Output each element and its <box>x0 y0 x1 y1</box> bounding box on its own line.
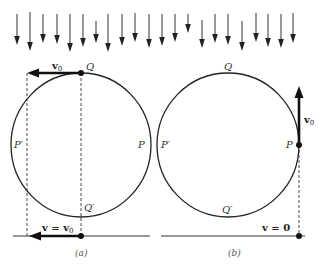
label-v-equals-zero: v = 0 <box>261 222 290 233</box>
label-q: Q <box>86 61 94 72</box>
point-q-dot <box>78 70 84 76</box>
label-q-prime: Q′ <box>222 204 233 215</box>
arrowhead-down-icon <box>54 35 60 44</box>
label-q-prime: Q′ <box>84 202 95 213</box>
arrowhead-left-icon <box>27 69 39 78</box>
arrowhead-down-icon <box>159 37 165 46</box>
arrowhead-down-icon <box>14 36 20 45</box>
label-p: P <box>137 139 145 150</box>
arrowhead-down-icon <box>172 33 178 42</box>
arrowhead-down-icon <box>278 39 284 48</box>
arrowhead-down-icon <box>253 33 259 42</box>
arrowhead-down-icon <box>119 37 125 46</box>
arrowhead-down-icon <box>27 42 33 51</box>
wheel-b <box>157 73 299 217</box>
arrowhead-down-icon <box>105 43 111 52</box>
caption-b: (b) <box>228 248 241 258</box>
arrowhead-down-icon <box>239 42 245 51</box>
label-p: P <box>285 139 293 150</box>
arrowhead-down-icon <box>93 34 99 43</box>
arrowhead-down-icon <box>80 38 86 47</box>
falling-rain-arrows <box>14 12 296 52</box>
arrowhead-down-icon <box>146 39 152 48</box>
label-v-equals-v0: v = v0 <box>41 222 73 235</box>
arrowhead-down-icon <box>265 38 271 47</box>
contact-point-dot <box>296 233 302 239</box>
caption-a: (a) <box>75 248 88 258</box>
label-p-prime: P′ <box>160 139 171 150</box>
label-v0-side: v0 <box>303 114 314 127</box>
arrowhead-down-icon <box>67 43 73 52</box>
arrowhead-down-icon <box>132 33 138 42</box>
arrowhead-left-icon <box>29 232 41 241</box>
arrowhead-up-icon <box>295 86 304 98</box>
arrowhead-down-icon <box>225 36 231 45</box>
arrowhead-down-icon <box>212 34 218 43</box>
arrowhead-down-icon <box>185 24 191 33</box>
rolling-wheel-diagram: v0 Q P′ P Q′ v = v0 (a) Q P′ P v0 Q′ v =… <box>0 0 328 275</box>
label-p-prime: P′ <box>13 139 24 150</box>
panel-b: Q P′ P v0 Q′ v = 0 (b) <box>157 61 314 258</box>
arrowhead-down-icon <box>40 34 46 43</box>
arrowhead-down-icon <box>199 39 205 48</box>
label-v0-top: v0 <box>51 60 62 73</box>
panel-a: v0 Q P′ P Q′ v = v0 (a) <box>11 60 151 258</box>
label-q: Q <box>224 61 232 72</box>
contact-point-dot <box>78 233 84 239</box>
arrowhead-down-icon <box>290 34 296 43</box>
point-p-dot <box>296 142 302 148</box>
